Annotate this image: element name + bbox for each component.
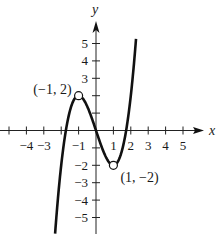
x-tick-label: 4 <box>162 138 169 153</box>
y-tick-label: 5 <box>82 36 89 51</box>
x-tick-label: 1 <box>110 138 117 153</box>
x-tick-label: 2 <box>128 138 135 153</box>
point-label: (−1, 2) <box>33 82 72 98</box>
x-tick-label: −1 <box>72 138 86 153</box>
cubic-function-graph: x −4−3−112345 y 543−2−3−4−5 (−1, 2)(1, −… <box>0 0 220 234</box>
y-axis: y 543−2−3−4−5 <box>74 2 100 234</box>
x-axis-label: x <box>208 123 216 138</box>
y-tick-label: 4 <box>82 53 89 68</box>
y-tick-label: 3 <box>82 71 89 86</box>
y-tick-label: −4 <box>74 193 88 208</box>
y-tick-label: −2 <box>74 158 88 173</box>
open-circle-marker-icon <box>109 161 117 169</box>
x-axis: x −4−3−112345 <box>0 123 216 153</box>
x-tick-label: 3 <box>145 138 152 153</box>
y-axis-label: y <box>90 2 99 17</box>
y-tick-label: −3 <box>74 175 88 190</box>
x-tick-label: 5 <box>180 138 187 153</box>
x-tick-label: −4 <box>19 138 33 153</box>
y-tick-label: −5 <box>74 210 88 225</box>
x-tick-label: −3 <box>37 138 51 153</box>
open-circle-marker-icon <box>75 92 83 100</box>
point-label: (1, −2) <box>120 170 159 186</box>
